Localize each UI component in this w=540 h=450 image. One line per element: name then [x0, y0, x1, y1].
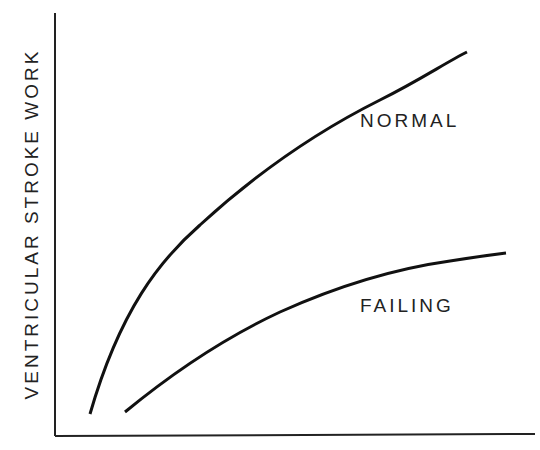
- chart-canvas: [0, 0, 540, 450]
- failing-curve: [125, 253, 506, 412]
- normal-curve: [90, 52, 467, 414]
- x-axis: [55, 434, 535, 436]
- y-axis-label: VENTRICULAR STROKE WORK: [21, 34, 43, 414]
- failing-series-label: FAILING: [360, 295, 454, 317]
- normal-series-label: NORMAL: [360, 110, 459, 132]
